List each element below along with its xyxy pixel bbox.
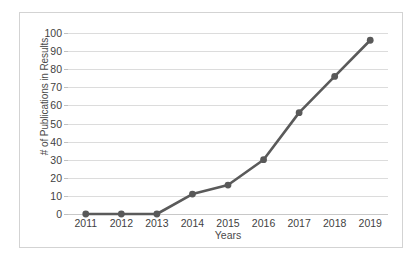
y-axis-tick-label: 20 bbox=[50, 172, 62, 184]
x-axis-tick-label: 2014 bbox=[181, 217, 204, 229]
y-axis-tick-label: 90 bbox=[50, 45, 62, 57]
y-axis-tick-mark bbox=[64, 214, 68, 215]
chart-container: # of Publications in Results 01020304050… bbox=[19, 12, 403, 248]
data-point-marker bbox=[367, 37, 374, 44]
x-axis-tick-label: 2019 bbox=[359, 217, 382, 229]
x-axis-tick-label: 2015 bbox=[216, 217, 239, 229]
y-axis-tick-label: 10 bbox=[50, 190, 62, 202]
x-axis-title: Years bbox=[68, 229, 388, 241]
x-axis-tick-label: 2017 bbox=[287, 217, 310, 229]
y-axis-tick-label: 70 bbox=[50, 81, 62, 93]
x-axis-tick-label: 2013 bbox=[145, 217, 168, 229]
y-axis-tick-label: 60 bbox=[50, 99, 62, 111]
x-axis-tick-label: 2011 bbox=[74, 217, 97, 229]
data-point-marker bbox=[331, 73, 338, 80]
data-point-marker bbox=[189, 191, 196, 198]
y-axis-tick-label: 30 bbox=[50, 154, 62, 166]
data-point-marker bbox=[296, 109, 303, 116]
data-point-marker bbox=[260, 156, 267, 163]
y-axis-tick-label: 40 bbox=[50, 136, 62, 148]
line-series bbox=[68, 33, 388, 214]
y-axis-tick-label: 0 bbox=[56, 208, 62, 220]
x-axis-tick-label: 2012 bbox=[110, 217, 133, 229]
x-axis-tick-label: 2016 bbox=[252, 217, 275, 229]
x-axis-tick-label: 2018 bbox=[323, 217, 346, 229]
y-axis-tick-label: 100 bbox=[44, 27, 62, 39]
y-axis-tick-label: 80 bbox=[50, 63, 62, 75]
y-axis-tick-label: 50 bbox=[50, 118, 62, 130]
data-point-marker bbox=[225, 182, 232, 189]
plot-area: 0102030405060708090100 bbox=[68, 33, 388, 214]
